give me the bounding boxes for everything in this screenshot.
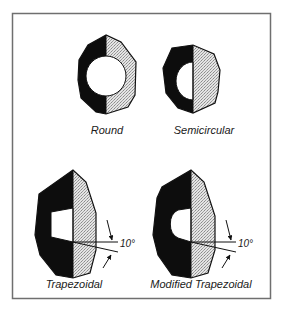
modified-trapezoidal-label: Modified Trapezoidal	[150, 278, 252, 290]
round-label: Round	[91, 124, 124, 136]
semicircular-label: Semicircular	[174, 124, 236, 136]
trapezoidal-angle-label: 10°	[120, 238, 135, 249]
modified-trapezoidal-angle-label: 10°	[238, 238, 253, 249]
trapezoidal-hole	[51, 208, 73, 242]
round-hole	[86, 56, 126, 96]
trapezoidal-label: Trapezoidal	[46, 278, 103, 290]
diagram-canvas: Round Semicircular 10°	[0, 0, 282, 312]
